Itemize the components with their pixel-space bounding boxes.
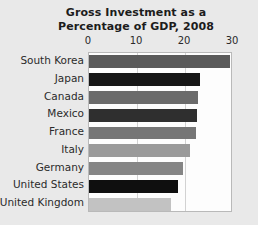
- y-label-germany: Germany: [36, 159, 84, 177]
- bar-row: [89, 71, 231, 89]
- bar-united-kingdom: [89, 198, 171, 211]
- x-tick-label-20: 20: [178, 35, 191, 46]
- chart-title-line-1: Gross Investment as a: [28, 6, 244, 20]
- chart-title-line-2: Percentage of GDP, 2008: [28, 20, 244, 34]
- bar-canada: [89, 91, 198, 104]
- y-label-france: France: [49, 123, 84, 141]
- y-label-south-korea: South Korea: [20, 52, 84, 70]
- bar-japan: [89, 73, 200, 86]
- bar-row: [89, 177, 231, 195]
- bar-row: [89, 142, 231, 160]
- y-label-canada: Canada: [44, 88, 84, 106]
- plot-area: [88, 52, 232, 212]
- y-label-italy: Italy: [61, 141, 84, 159]
- y-label-united-kingdom: United Kingdom: [0, 194, 84, 212]
- x-tick-label-0: 0: [85, 35, 91, 46]
- bar-germany: [89, 162, 183, 175]
- y-label-japan: Japan: [55, 70, 84, 88]
- bar-row: [89, 124, 231, 142]
- bar-france: [89, 127, 196, 140]
- y-axis-category-labels: South KoreaJapanCanadaMexicoFranceItalyG…: [0, 52, 84, 212]
- x-tick-label-30: 30: [226, 35, 239, 46]
- bar-row: [89, 160, 231, 178]
- chart-title: Gross Investment as a Percentage of GDP,…: [28, 6, 244, 33]
- bar-mexico: [89, 109, 197, 122]
- bar-row: [89, 106, 231, 124]
- x-axis-tick-labels: 0102030: [0, 35, 258, 49]
- x-tick-label-10: 10: [130, 35, 143, 46]
- gross-investment-bar-chart: Gross Investment as a Percentage of GDP,…: [0, 0, 258, 225]
- y-label-mexico: Mexico: [47, 105, 84, 123]
- bar-south-korea: [89, 55, 230, 68]
- bar-row: [89, 89, 231, 107]
- bar-row: [89, 195, 231, 213]
- bar-italy: [89, 144, 190, 157]
- bar-row: [89, 53, 231, 71]
- y-label-united-states: United States: [13, 176, 84, 194]
- bar-rows: [89, 53, 231, 211]
- bar-united-states: [89, 180, 178, 193]
